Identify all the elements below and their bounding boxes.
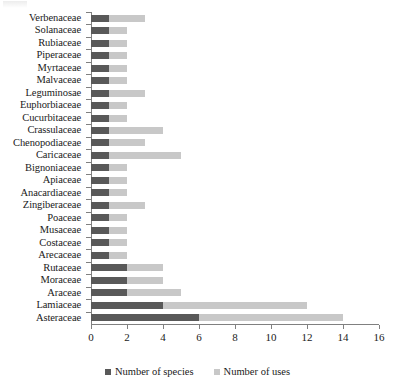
- bar-segment-species: [91, 314, 199, 321]
- bar-segment-uses: [109, 139, 145, 146]
- x-axis-tick-label: 10: [266, 330, 277, 344]
- bar-chart: AsteraceaeLamiaceaeAraceaeMoraceaeRutace…: [0, 0, 395, 386]
- bar-segment-species: [91, 65, 109, 72]
- x-axis-tick: [379, 325, 380, 329]
- stacked-bar: [91, 239, 379, 246]
- legend-item[interactable]: Number of species: [105, 366, 194, 377]
- bar-row: [91, 99, 379, 111]
- bar-segment-uses: [109, 77, 127, 84]
- bar-segment-uses: [127, 264, 163, 271]
- bar-row: [91, 87, 379, 99]
- y-axis-label: Costaceae: [0, 237, 84, 249]
- stacked-bar: [91, 202, 379, 209]
- bar-segment-species: [91, 115, 109, 122]
- bar-row: [91, 62, 379, 74]
- bar-row: [91, 112, 379, 124]
- x-axis-tick: [343, 325, 344, 329]
- y-axis-label: Lamiaceae: [0, 299, 84, 311]
- stacked-bar: [91, 152, 379, 159]
- legend-item[interactable]: Number of uses: [214, 366, 291, 377]
- bar-segment-species: [91, 152, 109, 159]
- legend-label: Number of uses: [224, 366, 291, 377]
- stacked-bar: [91, 15, 379, 22]
- bar-segment-uses: [163, 302, 307, 309]
- y-axis-label: Bignoniaceae: [0, 162, 84, 174]
- stacked-bar: [91, 90, 379, 97]
- y-axis-label: Solanaceae: [0, 24, 84, 36]
- bar-row: [91, 224, 379, 236]
- plot-area: [91, 12, 379, 324]
- y-axis-label: Rutaceae: [0, 262, 84, 274]
- stacked-bar: [91, 177, 379, 184]
- bar-segment-species: [91, 77, 109, 84]
- bar-row: [91, 262, 379, 274]
- bar-row: [91, 274, 379, 286]
- stacked-bar: [91, 277, 379, 284]
- y-axis-label: Crassulaceae: [0, 124, 84, 136]
- chart-legend: Number of speciesNumber of uses: [0, 366, 395, 377]
- x-axis-tick-labels: 0246810121416: [91, 330, 379, 346]
- bar-row: [91, 37, 379, 49]
- y-axis-label: Piperaceae: [0, 49, 84, 61]
- bar-segment-species: [91, 302, 163, 309]
- y-axis-label: Chenopodiaceae: [0, 137, 84, 149]
- y-axis-label: Caricaceae: [0, 149, 84, 161]
- stacked-bar: [91, 77, 379, 84]
- bar-row: [91, 299, 379, 311]
- bar-segment-uses: [109, 227, 127, 234]
- bar-segment-uses: [109, 152, 181, 159]
- bar-segment-species: [91, 189, 109, 196]
- stacked-bar: [91, 302, 379, 309]
- x-axis-tick-label: 2: [124, 330, 130, 344]
- bar-segment-uses: [109, 202, 145, 209]
- y-axis-label: Apiaceae: [0, 174, 84, 186]
- stacked-bar: [91, 52, 379, 59]
- y-axis-label: Zingiberaceae: [0, 199, 84, 211]
- bar-segment-uses: [109, 102, 127, 109]
- bar-segment-uses: [127, 277, 163, 284]
- stacked-bar: [91, 115, 379, 122]
- bar-row: [91, 49, 379, 61]
- bar-segment-uses: [109, 214, 127, 221]
- bar-segment-species: [91, 15, 109, 22]
- stacked-bar: [91, 264, 379, 271]
- bar-segment-species: [91, 40, 109, 47]
- bar-row: [91, 312, 379, 324]
- y-axis-category-labels: AsteraceaeLamiaceaeAraceaeMoraceaeRutace…: [0, 12, 84, 324]
- bar-segment-species: [91, 289, 127, 296]
- bar-segment-species: [91, 52, 109, 59]
- bar-segment-species: [91, 177, 109, 184]
- bar-segment-species: [91, 102, 109, 109]
- bar-segment-species: [91, 214, 109, 221]
- bar-segment-uses: [109, 15, 145, 22]
- y-axis-label: Asteraceae: [0, 312, 84, 324]
- stacked-bar: [91, 189, 379, 196]
- stacked-bar: [91, 164, 379, 171]
- stacked-bar: [91, 65, 379, 72]
- bar-segment-species: [91, 90, 109, 97]
- bar-segment-uses: [199, 314, 343, 321]
- x-axis-tick: [271, 325, 272, 329]
- legend-label: Number of species: [115, 366, 194, 377]
- bar-segment-species: [91, 164, 109, 171]
- stacked-bar: [91, 314, 379, 321]
- bar-segment-uses: [109, 177, 127, 184]
- bar-segment-species: [91, 277, 127, 284]
- stacked-bar: [91, 214, 379, 221]
- y-axis-label: Musaceae: [0, 224, 84, 236]
- bar-segment-uses: [109, 115, 127, 122]
- bar-segment-species: [91, 239, 109, 246]
- y-axis-label: Malvaceae: [0, 74, 84, 86]
- bar-row: [91, 149, 379, 161]
- stacked-bar: [91, 252, 379, 259]
- bar-segment-uses: [109, 27, 127, 34]
- x-axis-tick-marks: [91, 325, 379, 329]
- y-axis-label: Arecaceae: [0, 249, 84, 261]
- x-axis-tick: [163, 325, 164, 329]
- bar-segment-uses: [109, 239, 127, 246]
- bar-segment-uses: [109, 189, 127, 196]
- bar-segment-uses: [109, 52, 127, 59]
- bar-segment-uses: [109, 164, 127, 171]
- bar-segment-species: [91, 264, 127, 271]
- y-axis-label: Anacardiaceae: [0, 187, 84, 199]
